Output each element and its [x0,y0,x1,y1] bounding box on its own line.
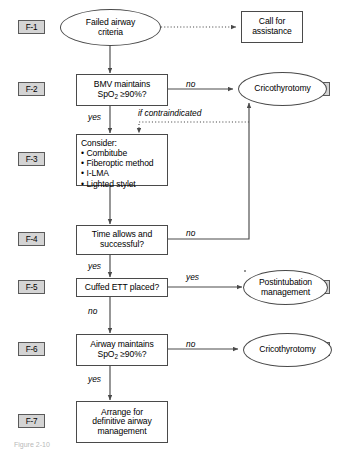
edge-label-time-allows-yes: yes [88,261,101,271]
call-assistance-line2: assistance [252,27,292,37]
section-label-f6: F-6 [18,342,45,356]
edge-label-bmv-yes: yes [88,112,101,122]
edge-label-time-allows-no: no [186,228,195,238]
consider-item-fiberoptic: Fiberoptic method [81,158,154,168]
flowchart-edges [0,0,341,449]
node-cricothyrotomy-2: Cricothyrotomy [243,333,332,367]
consider-heading: Consider: [81,138,154,148]
section-label-f4: F-4 [18,232,45,246]
node-call-for-assistance: Call for assistance [241,11,303,43]
edge-contraindicated-to-consider [139,122,249,133]
edge-time-allows-no-to-cricothyrotomy [168,103,249,239]
bmv-line2: SpO2 ≥90%? [94,90,151,100]
figure-caption: Figure 2-10 [14,441,50,448]
node-airway-maintains-spo2: Airway maintains SpO2 ≥90%? [76,334,168,366]
node-time-allows-successful: Time allows and successful? [76,225,168,255]
edge-label-if-contraindicated: if contraindicated [138,108,201,118]
failed-airway-line2: criteria [86,28,135,38]
time-allows-line2: successful? [92,240,152,250]
postintubation-line2: management [259,288,312,298]
airway-line2: SpO2 ≥90%? [90,350,153,360]
bmv-spo-pre: SpO [98,89,115,99]
edge-label-airway-no: no [186,339,195,349]
node-postintubation: Postintubation management [243,270,328,305]
section-label-f5: F-5 [18,280,45,294]
node-postintubation-management [244,270,246,272]
node-cricothyrotomy-1: Cricothyrotomy [238,72,327,106]
section-label-f2: F-2 [18,82,45,96]
node-cuffed-ett-placed: Cuffed ETT placed? [76,278,168,297]
consider-item-combitube: Combitube [81,148,154,158]
edge-label-cuffed-ett-yes: yes [186,272,199,282]
edge-label-airway-yes: yes [88,374,101,384]
cricothyrotomy-2-label: Cricothyrotomy [259,345,315,355]
airway-spo-pre: SpO [98,349,115,359]
consider-item-ilma: I-LMA [81,168,154,178]
airway-spo-post: ≥90%? [118,349,146,359]
cuffed-ett-label: Cuffed ETT placed? [85,283,159,293]
node-consider-options: Consider: Combitube Fiberoptic method I-… [76,134,168,186]
cricothyrotomy-1-label: Cricothyrotomy [254,84,310,94]
node-failed-airway-criteria: Failed airway criteria [60,9,161,46]
section-label-f7: F-7 [18,414,45,428]
arrange-line3: management [92,427,151,437]
node-arrange-definitive-airway: Arrange for definitive airway management [76,401,168,443]
edge-label-bmv-no: no [186,79,195,89]
flowchart-canvas: F-1 F-2 F-3 F-4 F-5 F-6 F-7 F-2.1 F-5.1 … [0,0,341,449]
section-label-f3: F-3 [18,152,45,166]
consider-item-lighted-stylet: Lighted stylet [81,179,154,189]
edge-label-cuffed-ett-no: no [88,306,97,316]
bmv-spo-post: ≥90%? [118,89,146,99]
section-label-f1: F-1 [18,20,45,34]
node-bmv-maintains-spo2: BMV maintains SpO2 ≥90%? [76,74,168,106]
